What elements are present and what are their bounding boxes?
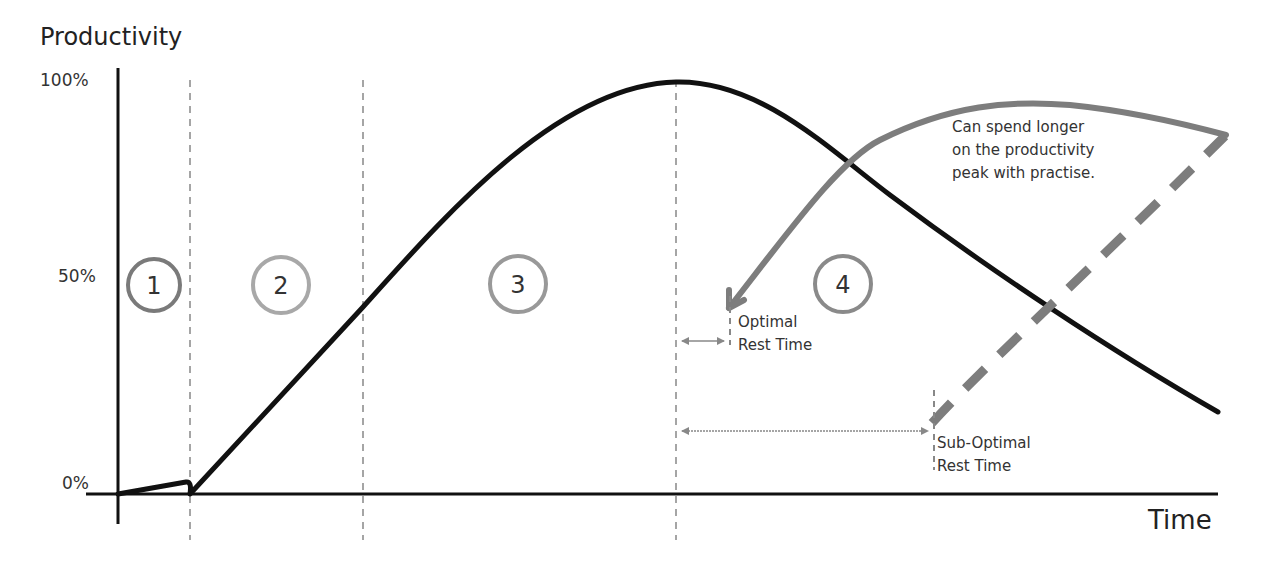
y-tick-100: 100% [40,70,89,90]
practise-note-line1: Can spend longer [952,118,1085,136]
suboptimal-label-line2: Rest Time [937,457,1011,475]
phase-3-badge: 3 [490,256,546,312]
phase-boundaries [190,80,676,540]
phase-4-label: 4 [835,271,850,299]
phase-4-badge: 4 [815,256,871,312]
practise-note-line2: on the productivity [952,141,1095,159]
suboptimal-label-line1: Sub-Optimal [937,434,1031,452]
productivity-chart: Productivity Time 100% 50% 0% Optimal Re… [0,0,1267,569]
phase-2-badge: 2 [253,257,309,313]
y-axis-title: Productivity [40,23,182,51]
x-axis-title: Time [1147,505,1212,535]
practise-note-line3: peak with practise. [952,164,1095,182]
optimal-label-line1: Optimal [738,313,797,331]
phase-1-label: 1 [146,272,161,300]
phase-1-badge: 1 [128,259,180,311]
phase-3-label: 3 [510,271,525,299]
optimal-label-line2: Rest Time [738,336,812,354]
phase-2-label: 2 [273,272,288,300]
y-tick-0: 0% [62,473,89,493]
y-tick-50: 50% [58,266,96,286]
